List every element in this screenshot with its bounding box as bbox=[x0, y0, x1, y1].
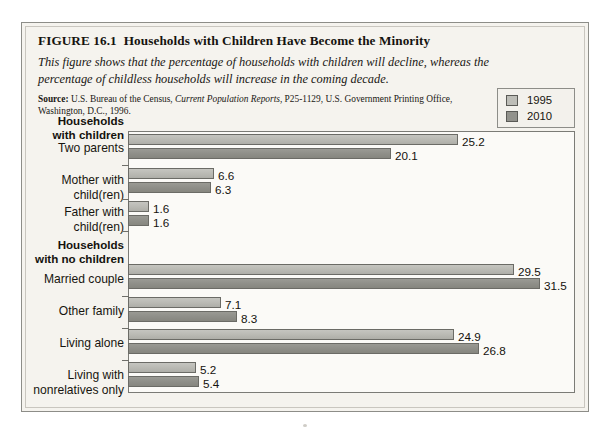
value-label-2010-living-alone: 26.8 bbox=[483, 345, 506, 356]
value-label-2010-two-parents: 20.1 bbox=[395, 150, 418, 161]
bar-1995-living-alone[interactable] bbox=[128, 329, 454, 340]
axis-tick bbox=[122, 360, 129, 361]
source-text-1: U.S. Bureau of the Census, bbox=[71, 94, 173, 104]
category-label-other-family: Other family bbox=[6, 304, 124, 319]
bar-1995-married-couple[interactable] bbox=[128, 264, 514, 275]
category-label-text: Mother with bbox=[61, 173, 124, 187]
category-label-text: Married couple bbox=[44, 272, 124, 286]
category-label-text-2: child(ren) bbox=[74, 188, 124, 202]
category-label-text: Living with bbox=[68, 368, 124, 382]
axis-tick bbox=[122, 165, 129, 166]
group-heading-line2: with children bbox=[53, 128, 125, 141]
group-heading-line1: Households bbox=[58, 114, 124, 127]
category-label-living-alone: Living alone bbox=[6, 336, 124, 351]
group-heading-with-children: Households with children bbox=[6, 114, 124, 141]
value-label-1995-mother-with-children: 6.6 bbox=[218, 170, 234, 181]
figure-root: FIGURE 16.1Households with Children Have… bbox=[0, 0, 610, 435]
figure-title: Households with Children Have Become the… bbox=[124, 33, 431, 48]
bar-1995-two-parents[interactable] bbox=[128, 134, 458, 145]
value-label-2010-living-with-nonrelatives: 5.4 bbox=[203, 378, 219, 389]
bar-2010-married-couple[interactable] bbox=[128, 278, 540, 289]
legend-swatch-1995 bbox=[506, 95, 518, 106]
value-label-1995-married-couple: 29.5 bbox=[518, 266, 541, 277]
chart-legend: 1995 2010 bbox=[497, 88, 575, 128]
bar-2010-living-with-nonrelatives[interactable] bbox=[128, 376, 199, 387]
bar-2010-two-parents[interactable] bbox=[128, 148, 391, 159]
figure-caption: This figure shows that the percentage of… bbox=[38, 54, 508, 87]
group-heading-line1: Households bbox=[58, 238, 124, 251]
category-label-text-2: child(ren) bbox=[74, 220, 124, 234]
legend-label-1995: 1995 bbox=[527, 94, 552, 106]
category-label-text: Living alone bbox=[59, 336, 124, 350]
category-label-married-couple: Married couple bbox=[6, 272, 124, 287]
axis-tick bbox=[122, 199, 129, 200]
category-label-living-with-nonrelatives: Living with nonrelatives only bbox=[6, 368, 124, 397]
value-label-2010-mother-with-children: 6.3 bbox=[215, 184, 231, 195]
category-label-text: Two parents bbox=[58, 141, 124, 155]
category-label-text-2: nonrelatives only bbox=[33, 383, 124, 397]
bar-1995-living-with-nonrelatives[interactable] bbox=[128, 362, 196, 373]
figure-number: FIGURE 16.1 bbox=[38, 33, 117, 48]
category-label-text: Father with bbox=[64, 205, 124, 219]
value-label-2010-father-with-children: 1.6 bbox=[153, 217, 169, 228]
legend-item-2010[interactable]: 2010 bbox=[506, 108, 574, 124]
value-label-1995-living-alone: 24.9 bbox=[458, 331, 481, 342]
category-label-mother-with-children: Mother with child(ren) bbox=[6, 173, 124, 202]
bar-1995-father-with-children[interactable] bbox=[128, 201, 149, 212]
bar-1995-other-family[interactable] bbox=[128, 297, 221, 308]
legend-label-2010: 2010 bbox=[527, 110, 552, 122]
bar-2010-living-alone[interactable] bbox=[128, 343, 479, 354]
axis-tick bbox=[122, 231, 129, 232]
bar-2010-mother-with-children[interactable] bbox=[128, 182, 211, 193]
bar-2010-father-with-children[interactable] bbox=[128, 215, 149, 226]
value-label-1995-two-parents: 25.2 bbox=[462, 136, 485, 147]
legend-swatch-2010 bbox=[506, 111, 518, 122]
category-label-father-with-children: Father with child(ren) bbox=[6, 205, 124, 234]
figure-title-line: FIGURE 16.1Households with Children Have… bbox=[38, 33, 538, 49]
figure-header: FIGURE 16.1Households with Children Have… bbox=[38, 33, 538, 117]
legend-item-1995[interactable]: 1995 bbox=[506, 92, 574, 108]
value-label-2010-married-couple: 31.5 bbox=[544, 280, 567, 291]
category-label-two-parents: Two parents bbox=[6, 141, 124, 156]
source-label: Source: bbox=[38, 94, 69, 104]
value-label-1995-living-with-nonrelatives: 5.2 bbox=[200, 364, 216, 375]
page-speck bbox=[303, 424, 307, 427]
group-heading-line2: with no children bbox=[35, 252, 124, 265]
bar-1995-mother-with-children[interactable] bbox=[128, 168, 214, 179]
source-publication: Current Population Reports, bbox=[175, 94, 282, 104]
value-label-1995-father-with-children: 1.6 bbox=[153, 203, 169, 214]
bar-2010-other-family[interactable] bbox=[128, 311, 237, 322]
value-label-1995-other-family: 7.1 bbox=[225, 299, 241, 310]
value-label-2010-other-family: 8.3 bbox=[241, 313, 257, 324]
group-heading-no-children: Households with no children bbox=[6, 238, 124, 265]
category-label-text: Other family bbox=[59, 304, 124, 318]
